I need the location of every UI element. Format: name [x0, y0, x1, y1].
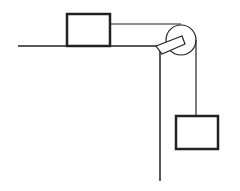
pulley-diagram [0, 0, 240, 191]
diagram-canvas [0, 0, 240, 191]
hanging-block [176, 116, 218, 149]
block-on-table [67, 14, 110, 46]
